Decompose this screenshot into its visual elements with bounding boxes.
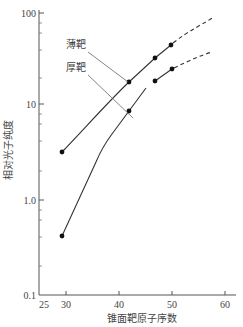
y-major-ticks bbox=[39, 13, 44, 200]
x-tick-60: 60 bbox=[220, 299, 230, 310]
x-tick-25: 25 bbox=[39, 299, 49, 310]
chart-canvas: 100 10 1.0 0.1 25 30 40 50 60 锥面靶原子序数 相对… bbox=[0, 0, 243, 327]
thin-target-extrapolation bbox=[173, 17, 214, 43]
y-tick-100: 100 bbox=[21, 8, 36, 19]
y-tick-0-1: 0.1 bbox=[24, 290, 37, 301]
thick-target-curve-upper bbox=[155, 69, 172, 81]
x-tick-30: 30 bbox=[61, 299, 71, 310]
x-axis-title: 锥面靶原子序数 bbox=[107, 312, 177, 324]
thin-target-leader-line bbox=[88, 52, 128, 82]
x-tick-40: 40 bbox=[114, 299, 124, 310]
y-axis-title: 相对光子纯度 bbox=[2, 120, 14, 180]
thick-target-curve bbox=[62, 88, 146, 236]
x-tick-50: 50 bbox=[167, 299, 177, 310]
thick-target-label: 厚靶 bbox=[66, 61, 86, 73]
y-tick-10: 10 bbox=[26, 99, 36, 110]
y-tick-1: 1.0 bbox=[24, 195, 37, 206]
thin-target-label: 薄靶 bbox=[66, 38, 86, 50]
thick-target-points bbox=[60, 67, 175, 239]
thin-target-points bbox=[60, 43, 174, 155]
thick-target-leader-line bbox=[88, 75, 133, 118]
x-ticks bbox=[66, 291, 225, 295]
thick-target-extrapolation bbox=[174, 52, 212, 68]
